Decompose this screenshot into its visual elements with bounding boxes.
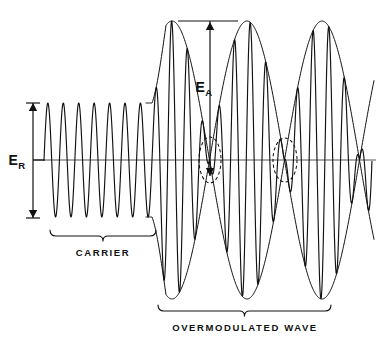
er-annotation: ER bbox=[9, 103, 45, 218]
upper-envelope-path bbox=[146, 21, 374, 160]
overmodulated-brace bbox=[158, 305, 331, 316]
er-arrowhead-bottom bbox=[29, 210, 37, 218]
am-overmodulation-diagram: ER EA CARRIER OVERMODULATED WAVE bbox=[0, 0, 388, 351]
carrier-brace-group: CARRIER bbox=[50, 230, 156, 258]
carrier-label: CARRIER bbox=[76, 247, 130, 258]
ea-arrowhead-top bbox=[206, 22, 214, 30]
carrier-brace bbox=[50, 230, 156, 241]
overmodulated-brace-group: OVERMODULATED WAVE bbox=[158, 305, 331, 333]
er-arrowhead-top bbox=[29, 103, 37, 111]
er-label: ER bbox=[9, 152, 26, 171]
overmodulated-label: OVERMODULATED WAVE bbox=[172, 322, 318, 333]
